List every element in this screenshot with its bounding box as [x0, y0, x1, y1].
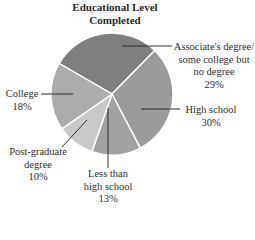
- label-text: degree: [6, 159, 70, 172]
- label-percent: 18%: [2, 101, 42, 114]
- label-text: no degree: [171, 66, 255, 79]
- label-text: College: [2, 88, 42, 101]
- label-text: some college but: [171, 54, 255, 67]
- label-percent: 10%: [6, 171, 70, 184]
- label-text: Associate's degree/: [171, 41, 255, 54]
- label-less-than-high-school: Less than high school 13%: [78, 168, 138, 206]
- label-text: high school: [78, 181, 138, 194]
- label-text: Less than: [78, 168, 138, 181]
- label-high-school: High school 30%: [178, 104, 244, 129]
- label-percent: 30%: [178, 117, 244, 130]
- label-text: Post-graduate: [6, 146, 70, 159]
- label-college: College 18%: [2, 88, 42, 113]
- label-percent: 29%: [171, 79, 255, 92]
- label-associates: Associate's degree/ some college but no …: [171, 41, 255, 91]
- label-post-graduate: Post-graduate degree 10%: [6, 146, 70, 184]
- label-text: High school: [178, 104, 244, 117]
- label-percent: 13%: [78, 193, 138, 206]
